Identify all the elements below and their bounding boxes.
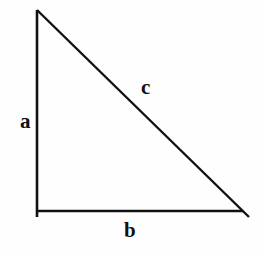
hypotenuse-line	[37, 10, 249, 217]
side-label-a: a	[20, 111, 31, 132]
triangle-canvas	[0, 0, 263, 253]
side-label-c: c	[141, 77, 150, 98]
right-triangle-figure: a b c	[0, 0, 263, 253]
side-label-b: b	[124, 220, 136, 241]
